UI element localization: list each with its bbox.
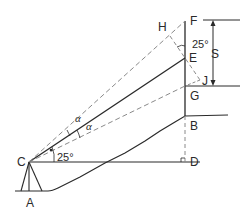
label-alpha-upper: α xyxy=(75,112,81,124)
label-g: G xyxy=(190,89,199,103)
arrow-head-up xyxy=(211,20,216,26)
arrow-head-down xyxy=(211,80,216,86)
label-f: F xyxy=(190,14,197,28)
label-alpha-lower: α xyxy=(86,120,92,132)
tacheometry-diagram: F H E J G B D C A S 25° 25° α α xyxy=(0,0,245,216)
label-c: C xyxy=(17,155,26,169)
upper-stadia-cf xyxy=(29,21,185,162)
label-s: S xyxy=(211,47,219,61)
alpha-arc-lower xyxy=(77,130,80,138)
label-e: E xyxy=(189,51,197,65)
label-angle-25: 25° xyxy=(57,151,74,163)
label-angle-e: 25° xyxy=(192,38,209,50)
tripod-leg-right xyxy=(29,162,42,191)
dashed-line-jg xyxy=(185,80,200,86)
angle-arc-e xyxy=(177,45,185,47)
label-b: B xyxy=(190,119,198,133)
label-a: A xyxy=(26,196,34,210)
label-h: H xyxy=(158,20,167,34)
angle-arc-25-c xyxy=(52,147,54,162)
lower-stadia-cg xyxy=(29,86,185,162)
label-d: D xyxy=(190,155,199,169)
diagram-canvas: F H E J G B D C A S 25° 25° α α xyxy=(0,0,245,216)
angle-marker-dot xyxy=(50,149,53,152)
line-of-sight-ce xyxy=(29,58,185,162)
label-j: J xyxy=(202,74,208,88)
